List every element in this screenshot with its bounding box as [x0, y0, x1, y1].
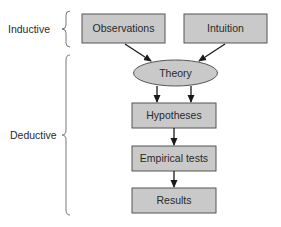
arrow-observations-theory	[125, 44, 151, 61]
deductive-label: Deductive	[10, 129, 57, 141]
node-empirical-tests: Empirical tests	[132, 146, 216, 171]
hypotheses-label: Hypotheses	[146, 109, 201, 121]
theory-label: Theory	[159, 67, 192, 79]
results-label: Results	[156, 194, 191, 206]
node-hypotheses: Hypotheses	[132, 103, 216, 128]
arrow-intuition-theory	[199, 44, 225, 61]
node-intuition: Intuition	[184, 14, 267, 43]
node-results: Results	[132, 188, 216, 213]
observations-label: Observations	[93, 22, 155, 34]
intuition-label: Intuition	[207, 22, 244, 34]
node-theory: Theory	[134, 60, 218, 86]
diagram-canvas: Inductive Deductive Observations Intuiti…	[0, 0, 281, 227]
empirical-tests-label: Empirical tests	[140, 152, 208, 164]
node-observations: Observations	[82, 14, 165, 43]
deductive-brace	[62, 55, 70, 215]
inductive-label: Inductive	[8, 23, 50, 35]
inductive-brace	[62, 11, 70, 47]
